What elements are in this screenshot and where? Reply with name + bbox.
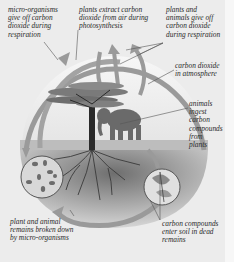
label-co2-atmosphere: carbon dioxide in atmosphere	[175, 62, 220, 78]
label-micro-organisms-respiration: micro-organisms give off carbon dioxide …	[8, 6, 58, 39]
arrow-head-icon	[108, 44, 120, 54]
label-plants-animals-respiration: plants and animals give off carbon dioxi…	[166, 6, 220, 39]
label-animals-ingest: animals ingest carbon compounds from pla…	[189, 100, 223, 149]
microbes-circle-icon	[21, 156, 63, 198]
label-photosynthesis: plants extract carbon dioxide from air d…	[79, 6, 148, 31]
grass-strip	[20, 140, 208, 150]
dead-leaves-circle-icon	[144, 169, 180, 205]
label-carbon-enters-soil: carbon compounds enter soil in dead rema…	[162, 220, 218, 245]
cycle-arrow-icon	[98, 52, 100, 85]
label-remains-broken-down: plant and animal remains broken down by …	[10, 218, 74, 243]
arrow-head-icon	[58, 52, 70, 66]
